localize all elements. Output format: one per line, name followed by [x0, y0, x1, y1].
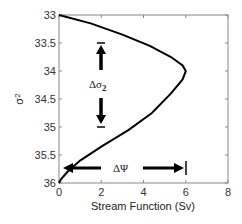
svg-text:σ2: σ2 — [13, 93, 25, 105]
delta-sigma-label: Δσ2 — [89, 78, 107, 93]
svg-text:2: 2 — [98, 186, 104, 198]
svg-text:35: 35 — [44, 121, 56, 133]
svg-text:33.5: 33.5 — [35, 37, 56, 49]
svg-text:6: 6 — [183, 186, 189, 198]
y-axis-label: σ2 — [13, 93, 25, 105]
svg-text:34.5: 34.5 — [35, 93, 56, 105]
svg-text:0: 0 — [56, 186, 62, 198]
x-axis-label: Stream Function (Sv) — [91, 200, 195, 212]
svg-text:4: 4 — [140, 186, 146, 198]
svg-text:8: 8 — [225, 186, 231, 198]
svg-text:33: 33 — [44, 9, 56, 21]
chart: 024683333.53434.53535.536 Δσ2 ΔΨ Stream … — [0, 0, 242, 224]
svg-text:35.5: 35.5 — [35, 149, 56, 161]
svg-text:36: 36 — [44, 177, 56, 189]
profile-curve — [59, 15, 186, 183]
tick-labels: 024683333.53434.53535.536 — [35, 9, 231, 198]
delta-psi-label: ΔΨ — [113, 162, 129, 174]
svg-text:34: 34 — [44, 65, 56, 77]
